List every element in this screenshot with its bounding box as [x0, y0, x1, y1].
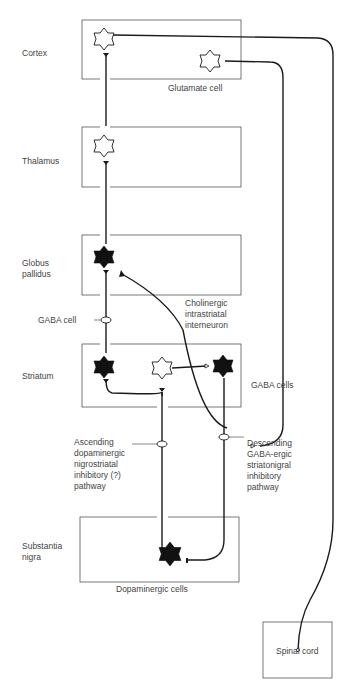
- glutamate-cell: [200, 50, 220, 72]
- label-spinal-cord: Spinal cord: [276, 646, 319, 657]
- thalamus-cell: [94, 135, 114, 157]
- label-thalamus: Thalamus: [22, 156, 59, 167]
- ascending-marker: [157, 441, 167, 447]
- label-cholinergic-2: intrastriatal: [185, 309, 227, 320]
- label-ascending-5: pathway: [74, 481, 106, 492]
- label-cortex: Cortex: [22, 48, 47, 59]
- label-nigra: nigra: [22, 552, 41, 563]
- label-ascending-1: Ascending: [74, 437, 114, 448]
- label-descending-5: pathway: [247, 482, 279, 493]
- label-ascending-4: inhibitory (?): [74, 470, 121, 481]
- gaba-cell-marker: [101, 317, 111, 323]
- label-striatum: Striatum: [22, 371, 54, 382]
- label-cholinergic-1: Cholinergic: [185, 298, 228, 309]
- label-gaba-cell: GABA cell: [38, 315, 76, 326]
- label-descending-1: Descending: [247, 438, 292, 449]
- cholinergic-cell: [152, 357, 172, 379]
- label-gaba-cells: GABA cells: [251, 380, 294, 391]
- label-glutamate-cell: Glutamate cell: [168, 83, 222, 94]
- label-pallidus: pallidus: [22, 269, 51, 280]
- label-ascending-3: nigrostriatal: [74, 459, 118, 470]
- label-descending-3: striatonigral: [247, 460, 291, 471]
- label-dopaminergic-cells: Dopaminergic cells: [116, 584, 188, 595]
- label-descending-2: GABA-ergic: [247, 449, 292, 460]
- label-globus: Globus: [22, 258, 49, 269]
- label-cholinergic-3: interneuron: [185, 320, 228, 331]
- label-substantia: Substantia: [22, 541, 62, 552]
- descending-marker: [219, 434, 229, 440]
- cortex-pyramidal-cell: [94, 28, 114, 50]
- globus-pallidus-cell: [94, 246, 114, 268]
- striatum-gaba-cell-right: [213, 355, 233, 377]
- label-descending-4: inhibitory: [247, 471, 281, 482]
- striatum-gaba-cell-left: [94, 356, 114, 378]
- label-ascending-2: dopaminergic: [74, 448, 125, 459]
